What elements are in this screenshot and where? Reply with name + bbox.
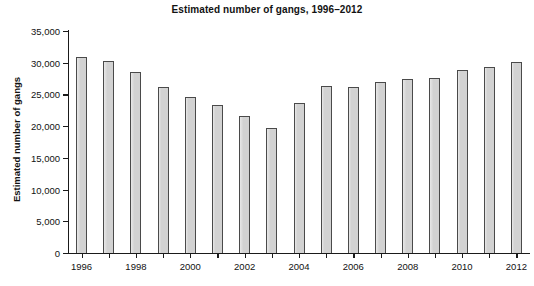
y-axis-tick (63, 221, 68, 222)
bar (130, 72, 141, 253)
bar (457, 70, 468, 253)
x-axis-tick (136, 253, 137, 258)
y-axis-tick (63, 158, 68, 159)
x-axis-tick (109, 253, 110, 258)
y-axis-tick-label: 25,000 (31, 89, 60, 100)
x-axis-tick (489, 253, 490, 258)
y-axis-tick-label: 35,000 (31, 26, 60, 37)
x-axis-tick (408, 253, 409, 258)
x-axis-tick (217, 253, 218, 258)
x-axis-tick (353, 253, 354, 258)
plot-area: 05,00010,00015,00020,00025,00030,00035,0… (68, 31, 530, 253)
bar (266, 128, 277, 253)
bar (212, 105, 223, 253)
x-axis-tick-label: 2006 (343, 261, 364, 272)
y-axis-tick-label: 10,000 (31, 184, 60, 195)
x-axis-tick (381, 253, 382, 258)
y-axis-tick (63, 126, 68, 127)
x-axis-tick-label: 1998 (125, 261, 146, 272)
x-axis-tick (272, 253, 273, 258)
y-axis-tick-label: 5,000 (36, 216, 60, 227)
y-axis-tick (63, 63, 68, 64)
x-axis-tick (516, 253, 517, 258)
y-axis-tick (63, 94, 68, 95)
bar (484, 67, 495, 253)
x-axis-tick (326, 253, 327, 258)
bar (239, 116, 250, 253)
chart-title: Estimated number of gangs, 1996–2012 (0, 4, 534, 15)
bar (402, 79, 413, 253)
bar (429, 78, 440, 253)
x-axis-tick (82, 253, 83, 258)
bar (76, 57, 87, 253)
bar (185, 97, 196, 253)
x-axis-tick-label: 2012 (506, 261, 527, 272)
chart-figure: Estimated number of gangs, 1996–2012 Est… (0, 0, 534, 286)
x-axis-tick-label: 2008 (397, 261, 418, 272)
x-axis-tick-label: 2010 (451, 261, 472, 272)
y-axis-tick-label: 15,000 (31, 152, 60, 163)
x-axis-tick-label: 2004 (288, 261, 309, 272)
x-axis-tick-label: 2002 (234, 261, 255, 272)
y-axis-tick (63, 31, 68, 32)
bar (375, 82, 386, 253)
bar (511, 62, 522, 253)
x-axis-tick (299, 253, 300, 258)
y-axis-tick-label: 30,000 (31, 57, 60, 68)
x-axis-tick (245, 253, 246, 258)
x-axis-tick (190, 253, 191, 258)
x-axis-tick-label: 1996 (71, 261, 92, 272)
bar (103, 61, 114, 253)
x-axis-tick (435, 253, 436, 258)
y-axis-tick-label: 0 (55, 248, 60, 259)
y-axis-title: Estimated number of gangs (11, 30, 22, 250)
x-axis-tick-label: 2000 (180, 261, 201, 272)
y-axis-tick (63, 190, 68, 191)
y-axis-tick (63, 253, 68, 254)
x-axis-tick (163, 253, 164, 258)
bar (158, 87, 169, 253)
y-axis-tick-label: 20,000 (31, 121, 60, 132)
bar (321, 86, 332, 253)
x-axis-tick (462, 253, 463, 258)
bar (294, 103, 305, 253)
bar (348, 87, 359, 253)
